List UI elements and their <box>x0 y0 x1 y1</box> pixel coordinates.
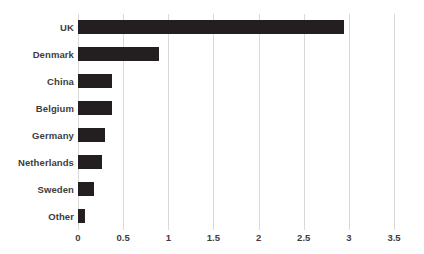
plot-area <box>78 14 394 230</box>
category-label-sweden: Sweden <box>0 184 74 195</box>
gridline-3 <box>349 14 350 230</box>
gridline-2.5 <box>304 14 305 230</box>
bar-netherlands <box>78 155 102 169</box>
category-label-china: China <box>0 76 74 87</box>
category-label-denmark: Denmark <box>0 49 74 60</box>
x-tick-label-1.5: 1.5 <box>207 232 220 243</box>
gridline-2 <box>259 14 260 230</box>
bar-china <box>78 74 112 88</box>
x-tick-label-3: 3 <box>346 232 351 243</box>
bar-other <box>78 209 85 223</box>
category-label-uk: UK <box>0 22 74 33</box>
bar-germany <box>78 128 105 142</box>
gridline-1.5 <box>213 14 214 230</box>
x-tick-label-3.5: 3.5 <box>387 232 400 243</box>
x-axis: 00.511.522.533.5 <box>0 232 424 250</box>
bar-sweden <box>78 182 94 196</box>
bar-uk <box>78 20 344 34</box>
category-label-germany: Germany <box>0 130 74 141</box>
bar-denmark <box>78 47 159 61</box>
x-tick-label-0.5: 0.5 <box>117 232 130 243</box>
gridline-3.5 <box>394 14 395 230</box>
x-tick-label-0: 0 <box>75 232 80 243</box>
category-axis: UKDenmarkChinaBelgiumGermanyNetherlandsS… <box>0 14 74 230</box>
gridline-1 <box>168 14 169 230</box>
x-tick-label-2: 2 <box>256 232 261 243</box>
x-tick-label-1: 1 <box>166 232 171 243</box>
bar-belgium <box>78 101 112 115</box>
bar-chart: UKDenmarkChinaBelgiumGermanyNetherlandsS… <box>0 0 424 254</box>
category-label-netherlands: Netherlands <box>0 157 74 168</box>
category-label-other: Other <box>0 211 74 222</box>
category-label-belgium: Belgium <box>0 103 74 114</box>
x-tick-label-2.5: 2.5 <box>297 232 310 243</box>
